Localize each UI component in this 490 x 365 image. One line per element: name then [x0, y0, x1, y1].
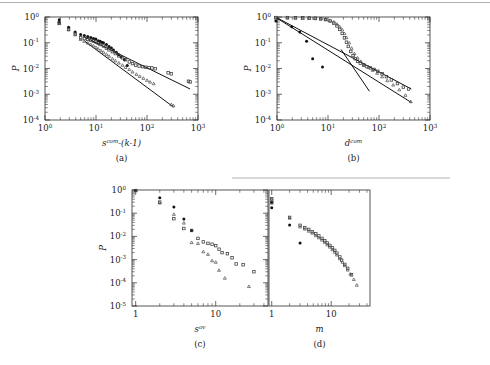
- data-point-open-triangle: [131, 70, 134, 73]
- series-open-square: [58, 22, 191, 83]
- fit-line-steep-fit: [341, 49, 369, 91]
- data-point-filled-circle: [299, 241, 302, 244]
- data-point-open-triangle: [149, 81, 152, 84]
- data-point-filled-circle: [83, 34, 86, 37]
- panel-c-axes: 11010010-110-210-310-410-5: [110, 185, 268, 320]
- data-point-open-triangle: [338, 25, 341, 28]
- y-tick-label: 10-2: [23, 63, 40, 74]
- data-point-open-square: [345, 41, 348, 44]
- data-point-open-triangle: [117, 61, 120, 64]
- y-tick-label: 100: [112, 185, 127, 196]
- data-point-open-square: [347, 45, 350, 48]
- data-point-filled-circle: [172, 206, 175, 209]
- data-point-open-square: [183, 227, 186, 230]
- data-point-open-square: [197, 237, 200, 240]
- fit-line-upper-fit: [85, 37, 190, 89]
- data-point-open-triangle: [398, 88, 401, 91]
- panel-d-label: (d): [313, 339, 325, 349]
- data-point-open-square: [111, 50, 114, 53]
- panel-a-label: (a): [116, 153, 128, 163]
- data-point-open-triangle: [152, 82, 155, 85]
- series-open-square: [134, 189, 255, 273]
- data-point-open-square: [114, 52, 117, 55]
- data-point-open-square: [221, 251, 224, 254]
- data-point-filled-circle: [274, 19, 277, 22]
- x-tick-label: 101: [89, 123, 103, 134]
- data-point-open-triangle: [99, 49, 102, 52]
- y-tick-label: 100: [25, 12, 40, 23]
- panel-b-data: [274, 16, 412, 102]
- data-point-open-square: [189, 81, 192, 84]
- panel-a-xlabel: scom-(k-1): [102, 138, 141, 149]
- data-point-open-square: [202, 241, 205, 244]
- series-open-square: [270, 197, 352, 276]
- data-point-open-square: [151, 67, 154, 70]
- data-point-filled-circle: [321, 65, 324, 68]
- data-point-open-triangle: [196, 242, 199, 245]
- data-point-open-square: [390, 79, 393, 82]
- data-point-open-triangle: [211, 259, 214, 262]
- data-point-open-square: [138, 65, 141, 68]
- data-point-open-square: [128, 61, 131, 64]
- data-point-open-triangle: [356, 56, 359, 59]
- data-point-filled-circle: [298, 31, 301, 34]
- data-point-open-square: [214, 244, 217, 247]
- data-point-open-triangle: [206, 253, 209, 256]
- panel-a-ylabel: P: [11, 65, 21, 72]
- y-tick-label: 100: [257, 12, 272, 23]
- x-tick-label: 100: [38, 123, 53, 134]
- x-tick-label: 1: [133, 309, 138, 319]
- data-point-open-triangle: [404, 94, 407, 97]
- data-point-filled-circle: [79, 33, 82, 36]
- panel-b-xlabel: dcom: [345, 138, 362, 149]
- data-point-open-square: [235, 263, 238, 266]
- data-point-open-triangle: [182, 222, 185, 225]
- data-point-open-square: [108, 49, 111, 52]
- data-point-filled-circle: [305, 40, 308, 43]
- data-point-filled-circle: [105, 43, 108, 46]
- y-tick-label: 10-3: [23, 89, 40, 100]
- data-point-open-triangle: [376, 72, 379, 75]
- series-open-triangle: [270, 198, 358, 286]
- data-point-open-square: [402, 86, 405, 89]
- data-point-open-square: [173, 217, 176, 220]
- panel-d-xlabel: m: [315, 324, 323, 334]
- data-point-open-square: [396, 82, 399, 85]
- x-tick-label: 10: [210, 309, 221, 319]
- x-tick-label: 102: [140, 123, 155, 134]
- data-point-open-triangle: [114, 59, 117, 62]
- y-tick-label: 10-3: [255, 89, 272, 100]
- data-point-open-square: [167, 72, 170, 75]
- data-point-filled-circle: [270, 206, 273, 209]
- data-point-open-square: [207, 242, 210, 245]
- y-tick-label: 10-1: [110, 208, 126, 219]
- series-open-triangle: [134, 189, 250, 287]
- y-tick-label: 10-1: [255, 37, 271, 48]
- data-point-open-triangle: [146, 79, 149, 82]
- figure-svg: 10010110210310010-110-210-310-4Pscom-(k-…: [0, 0, 490, 365]
- data-point-open-square: [356, 60, 359, 63]
- data-point-open-triangle: [386, 79, 389, 82]
- y-tick-label: 10-3: [110, 254, 127, 265]
- series-filled-circle: [270, 201, 301, 245]
- data-point-filled-circle: [89, 36, 92, 39]
- data-point-open-triangle: [121, 64, 124, 67]
- data-point-open-square: [154, 67, 157, 70]
- panel-b-axes: 10010110210310010-110-210-310-4: [255, 12, 438, 134]
- data-point-filled-circle: [290, 25, 293, 28]
- data-point-open-square: [121, 57, 124, 60]
- series-filled-circle: [274, 19, 324, 68]
- data-point-open-triangle: [138, 75, 141, 78]
- data-point-open-square: [148, 66, 151, 69]
- x-tick-label: 103: [423, 123, 438, 134]
- data-point-open-triangle: [111, 57, 114, 60]
- panel-c-frame: [132, 190, 268, 306]
- data-point-open-triangle: [172, 213, 175, 216]
- data-point-open-triangle: [348, 41, 351, 44]
- panel-c-data: [134, 189, 255, 288]
- y-tick-label: 10-1: [23, 37, 39, 48]
- x-tick-label: 1: [269, 309, 274, 319]
- data-point-open-square: [231, 257, 234, 260]
- x-tick-label: 10: [326, 309, 337, 319]
- data-point-filled-circle: [182, 218, 185, 221]
